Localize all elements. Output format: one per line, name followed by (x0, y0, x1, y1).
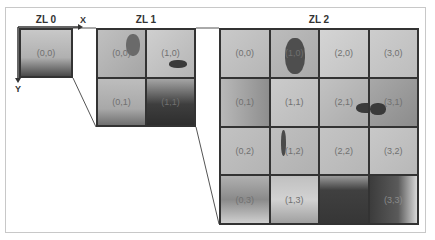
tile-label: (2,1) (334, 97, 353, 107)
tile-label: (1,3) (285, 195, 304, 205)
tile-label: (3,2) (384, 146, 403, 156)
tile-label: (0,0) (37, 48, 56, 58)
tile-zl2-2-0: (2,0) (319, 29, 369, 78)
tile-zl2-3-0: (3,0) (369, 29, 419, 78)
tile-label: (0,0) (235, 48, 254, 58)
tile-zl2-1-0: (1,0) (270, 29, 320, 78)
tile-zl1-0-0: (0,0) (97, 29, 146, 78)
tile-label: (1,1) (161, 97, 180, 107)
tile-label: (0,2) (235, 146, 254, 156)
zoom-level-2-grid: (0,0) (1,0) (2,0) (3,0) (0,1) (1,1) (2,1… (219, 28, 419, 225)
tile-label: (2,2) (334, 146, 353, 156)
tile-label: (0,1) (235, 97, 254, 107)
tile-label: (2,0) (334, 48, 353, 58)
tile-label: (3,1) (384, 97, 403, 107)
zoom-level-0-label: ZL 0 (18, 14, 74, 25)
tile-zl2-0-3: (0,3) (220, 175, 270, 224)
tile-label: (0,1) (112, 97, 131, 107)
tile-zl2-1-1: (1,1) (270, 78, 320, 127)
tile-zl2-0-1: (0,1) (220, 78, 270, 127)
zoom-level-0-grid: (0,0) (19, 28, 73, 78)
tile-label: (3,0) (384, 48, 403, 58)
tile-zl2-2-3 (319, 175, 369, 224)
tile-zl2-1-3: (1,3) (270, 175, 320, 224)
y-axis-label: Y (15, 84, 21, 94)
tile-label: (1,2) (285, 146, 304, 156)
tile-zl2-0-2: (0,2) (220, 127, 270, 176)
tile-label: (0,0) (112, 48, 131, 58)
tile-label: (1,0) (161, 48, 180, 58)
tile-zl1-1-0: (1,0) (146, 29, 195, 78)
tile-zl2-0-0: (0,0) (220, 29, 270, 78)
tile-label: (3,3) (384, 195, 403, 205)
tile-zl2-1-2: (1,2) (270, 127, 320, 176)
tile-label: (1,1) (285, 97, 304, 107)
tile-zl2-3-3: (3,3) (369, 175, 419, 224)
tile-zl1-0-1: (0,1) (97, 78, 146, 127)
zoom-level-2-label: ZL 2 (219, 14, 419, 25)
tile-label: (0,3) (235, 195, 254, 205)
tile-zl2-2-2: (2,2) (319, 127, 369, 176)
tile-zl2-2-1: (2,1) (319, 78, 369, 127)
x-axis-label: X (80, 15, 86, 25)
zoom-level-1-grid: (0,0) (1,0) (0,1) (1,1) (96, 28, 196, 127)
tile-label: (1,0) (285, 48, 304, 58)
tile-zl2-3-2: (3,2) (369, 127, 419, 176)
tile-zl2-3-1: (3,1) (369, 78, 419, 127)
tile-zl1-1-1: (1,1) (146, 78, 195, 127)
tile-zl0-0-0: (0,0) (20, 29, 72, 77)
zoom-level-1-label: ZL 1 (96, 14, 196, 25)
